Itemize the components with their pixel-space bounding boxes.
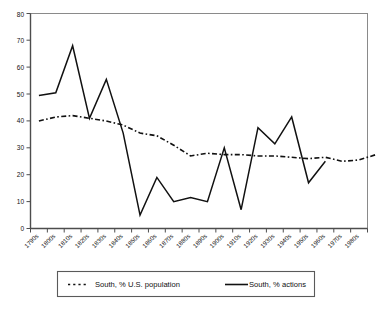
y-tick-label: 0 (20, 225, 24, 232)
y-axis-tick-labels: 0 10 20 30 40 50 60 70 80 (17, 11, 25, 233)
figure-container: 0 10 20 30 40 50 60 70 80 1790s1800s1810… (0, 0, 388, 313)
x-tick-label: 1800s (40, 232, 57, 249)
x-tick-label: 1900s (208, 232, 225, 249)
x-tick-label: 1860s (141, 232, 158, 249)
x-tick-label: 1850s (124, 232, 141, 249)
x-tick-label: 1920s (242, 232, 259, 249)
legend: South, % U.S. population South, % action… (58, 272, 315, 297)
x-tick-label: 1820s (73, 232, 90, 249)
plot-area-border (31, 14, 368, 229)
y-tick-label: 40 (17, 117, 25, 124)
y-tick-label: 80 (17, 11, 25, 18)
x-axis-ticks (31, 229, 368, 233)
x-tick-label: 1940s (276, 232, 293, 249)
y-tick-label: 60 (17, 64, 25, 71)
x-tick-label: 1960s (309, 232, 326, 249)
x-tick-label: 1840s (107, 232, 124, 249)
x-tick-label: 1790s (23, 232, 40, 249)
x-tick-label: 1910s (225, 232, 242, 249)
y-tick-label: 20 (17, 171, 25, 178)
x-tick-label: 1890s (191, 232, 208, 249)
x-tick-label: 1980s (343, 232, 360, 249)
y-tick-label: 30 (17, 144, 25, 151)
x-tick-label: 1950s (292, 232, 309, 249)
y-tick-label: 70 (17, 37, 25, 44)
x-tick-label: 1810s (56, 232, 73, 249)
x-tick-label: 1880s (174, 232, 191, 249)
y-tick-label: 10 (17, 198, 25, 205)
x-tick-label: 1930s (259, 232, 276, 249)
y-tick-label: 50 (17, 91, 25, 98)
x-tick-label: 1970s (326, 232, 343, 249)
line-chart: 0 10 20 30 40 50 60 70 80 1790s1800s1810… (0, 0, 388, 313)
x-tick-label: 1870s (158, 232, 175, 249)
legend-label-actions: South, % actions (249, 280, 306, 289)
legend-label-population: South, % U.S. population (95, 280, 180, 289)
x-tick-label: 1830s (90, 232, 107, 249)
x-axis-tick-labels: 1790s1800s1810s1820s1830s1840s1850s1860s… (23, 232, 360, 249)
